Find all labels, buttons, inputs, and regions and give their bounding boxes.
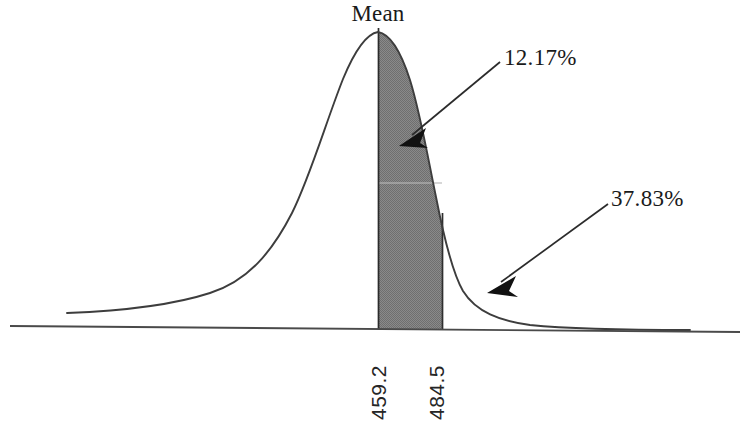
callout-arrow-37-83 bbox=[487, 204, 608, 297]
x-tick-label-459: 459.2 bbox=[368, 365, 389, 420]
x-tick-label-484: 484.5 bbox=[426, 365, 447, 420]
shaded-area-12-17 bbox=[378, 25, 443, 330]
shaded-percent-label: 12.17% bbox=[504, 45, 577, 71]
mean-annotation-label: Mean bbox=[330, 1, 426, 26]
tail-percent-label: 37.83% bbox=[611, 186, 684, 212]
